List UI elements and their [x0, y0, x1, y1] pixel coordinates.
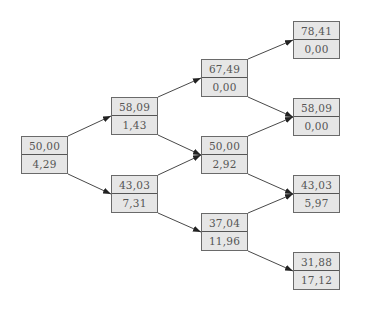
node-sub-value: 17,12 [294, 271, 339, 289]
node-n3ddd: 31,88 17,12 [293, 252, 340, 290]
binomial-tree-diagram: 50,00 4,29 58,09 1,43 43,03 7,31 67,49 0… [0, 0, 365, 310]
node-n0: 50,00 4,29 [21, 136, 68, 174]
node-sub-value: 0,00 [294, 117, 339, 135]
node-value: 37,04 [202, 214, 247, 232]
node-n1u: 58,09 1,43 [111, 97, 158, 135]
node-n1d: 43,03 7,31 [111, 175, 158, 213]
node-value: 58,09 [294, 99, 339, 117]
node-n3udd: 43,03 5,97 [293, 175, 340, 213]
edge-arrow [248, 174, 293, 194]
edge-arrow [158, 135, 201, 155]
node-sub-value: 11,96 [202, 232, 247, 250]
node-sub-value: 5,97 [294, 194, 339, 212]
edge-arrow [158, 213, 201, 232]
node-value: 50,00 [22, 137, 67, 155]
edge-arrow [248, 194, 293, 213]
edge-arrow [248, 40, 293, 59]
node-n3uuu: 78,41 0,00 [293, 21, 340, 59]
node-sub-value: 0,00 [202, 78, 247, 96]
node-sub-value: 7,31 [112, 194, 157, 212]
edge-arrow [158, 155, 201, 175]
edge-arrow [248, 97, 293, 117]
edge-arrow [158, 78, 201, 97]
node-n2uu: 67,49 0,00 [201, 59, 248, 97]
node-value: 43,03 [112, 176, 157, 194]
edge-arrow [248, 117, 293, 136]
node-value: 58,09 [112, 98, 157, 116]
edge-arrow [68, 174, 111, 194]
node-sub-value: 4,29 [22, 155, 67, 173]
node-value: 43,03 [294, 176, 339, 194]
node-value: 31,88 [294, 253, 339, 271]
node-sub-value: 0,00 [294, 40, 339, 58]
node-n3uud: 58,09 0,00 [293, 98, 340, 136]
node-n2dd: 37,04 11,96 [201, 213, 248, 251]
node-sub-value: 2,92 [202, 155, 247, 173]
node-n2ud: 50,00 2,92 [201, 136, 248, 174]
node-value: 78,41 [294, 22, 339, 40]
node-value: 67,49 [202, 60, 247, 78]
node-value: 50,00 [202, 137, 247, 155]
node-sub-value: 1,43 [112, 116, 157, 134]
edge-arrow [68, 116, 111, 136]
edge-arrow [248, 251, 293, 271]
